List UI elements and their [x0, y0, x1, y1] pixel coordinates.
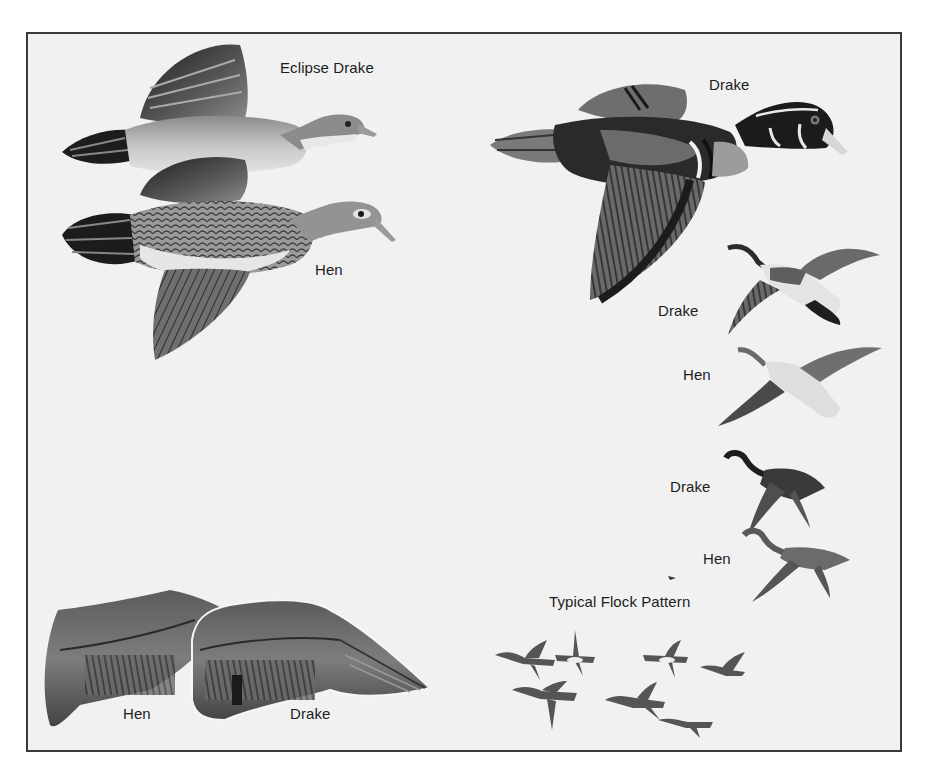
drake-overhead-illustration — [728, 247, 880, 335]
label-hen-overhead: Hen — [683, 367, 711, 382]
label-wing-drake: Drake — [290, 706, 331, 721]
label-drake-small: Drake — [670, 479, 711, 494]
label-hen-small: Hen — [703, 551, 731, 566]
label-drake-overhead: Drake — [658, 303, 699, 318]
label-drake-large: Drake — [709, 77, 750, 92]
label-eclipse-drake: Eclipse Drake — [280, 60, 374, 75]
label-hen-large: Hen — [315, 262, 343, 277]
wing-drake-illustration — [192, 600, 430, 720]
label-wing-hen: Hen — [123, 706, 151, 721]
duck-illustrations — [0, 0, 930, 777]
hen-large-illustration — [62, 157, 396, 360]
drake-large-illustration — [490, 84, 848, 300]
label-flock-pattern: Typical Flock Pattern — [549, 594, 690, 609]
hen-small-side-illustration — [744, 531, 850, 602]
hen-overhead-illustration — [718, 347, 882, 426]
flock-illustration — [495, 630, 745, 738]
drake-small-side-illustration — [726, 453, 825, 535]
tiny-mark — [668, 576, 676, 580]
